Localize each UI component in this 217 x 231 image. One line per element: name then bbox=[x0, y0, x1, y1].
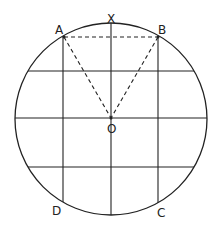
label-A: A bbox=[55, 23, 64, 37]
point-O bbox=[110, 117, 113, 120]
label-O: O bbox=[107, 122, 116, 136]
label-X: X bbox=[107, 12, 115, 26]
label-B: B bbox=[158, 23, 166, 37]
geometry-diagram: A X B O D C bbox=[0, 0, 217, 231]
grid-lines bbox=[0, 22, 217, 216]
label-D: D bbox=[52, 204, 61, 218]
label-C: C bbox=[157, 206, 165, 220]
